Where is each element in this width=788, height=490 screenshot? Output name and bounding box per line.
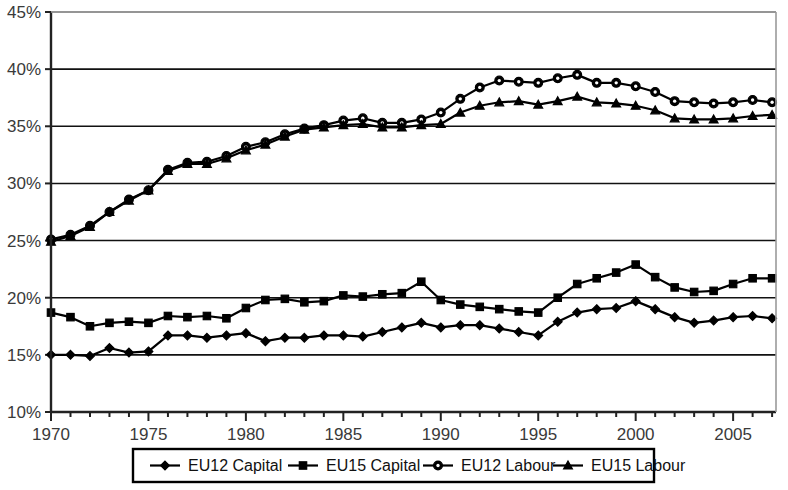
square-marker	[86, 323, 93, 330]
square-marker	[437, 296, 444, 303]
square-marker	[145, 319, 152, 326]
x-tick-label: 2000	[617, 425, 655, 444]
square-marker	[125, 318, 132, 325]
y-tick-label: 15%	[7, 346, 41, 365]
circle-marker-hole	[556, 77, 559, 80]
square-marker	[164, 312, 171, 319]
legend-label: EU12 Capital	[188, 457, 282, 474]
y-tick-label: 45%	[7, 3, 41, 22]
circle-marker-hole	[576, 73, 579, 76]
circle-marker-hole	[673, 99, 676, 102]
y-tick-label: 30%	[7, 174, 41, 193]
square-marker	[262, 296, 269, 303]
line-chart: 10%15%20%25%30%35%40%45% 197019751980198…	[0, 0, 788, 490]
square-marker	[320, 297, 327, 304]
square-marker	[574, 280, 581, 287]
square-marker	[476, 303, 483, 310]
square-marker	[729, 280, 736, 287]
square-marker	[515, 308, 522, 315]
square-marker	[359, 293, 366, 300]
x-tick-label: 1990	[422, 425, 460, 444]
y-tick-label: 35%	[7, 117, 41, 136]
square-marker	[593, 275, 600, 282]
legend-label: EU15 Capital	[326, 457, 420, 474]
chart-background	[0, 0, 788, 490]
square-marker	[612, 269, 619, 276]
square-marker	[223, 315, 230, 322]
circle-marker-hole	[712, 102, 715, 105]
square-marker	[690, 288, 697, 295]
x-tick-label: 1980	[227, 425, 265, 444]
square-marker	[398, 289, 405, 296]
legend-label: EU15 Labour	[591, 457, 686, 474]
square-marker	[457, 301, 464, 308]
square-marker	[418, 278, 425, 285]
circle-marker-hole	[751, 98, 754, 101]
circle-marker-hole	[439, 111, 442, 114]
y-tick-label: 25%	[7, 232, 41, 251]
square-marker	[67, 313, 74, 320]
circle-marker-hole	[770, 101, 773, 104]
chart-container: 10%15%20%25%30%35%40%45% 197019751980198…	[0, 0, 788, 490]
square-marker	[554, 294, 561, 301]
chart-legend: EU12 CapitalEU15 CapitalEU12 LabourEU15 …	[133, 449, 686, 482]
y-tick-label: 20%	[7, 289, 41, 308]
x-tick-label: 1970	[32, 425, 70, 444]
square-marker	[203, 312, 210, 319]
square-marker	[106, 319, 113, 326]
y-tick-label: 10%	[7, 403, 41, 422]
square-marker	[535, 309, 542, 316]
circle-marker-hole	[615, 81, 618, 84]
square-marker	[651, 273, 658, 280]
circle-marker-hole	[478, 86, 481, 89]
circle-marker-hole	[653, 90, 656, 93]
circle-marker-hole	[595, 81, 598, 84]
circle-marker-hole	[634, 85, 637, 88]
square-marker	[710, 287, 717, 294]
square-marker	[242, 304, 249, 311]
circle-marker-hole	[692, 101, 695, 104]
square-marker	[379, 291, 386, 298]
circle-marker-hole	[731, 101, 734, 104]
circle-marker-hole	[517, 80, 520, 83]
square-marker	[632, 261, 639, 268]
x-tick-label: 2005	[714, 425, 752, 444]
circle-marker-hole	[459, 97, 462, 100]
square-marker	[768, 275, 775, 282]
y-tick-label: 40%	[7, 60, 41, 79]
circle-marker-hole	[498, 79, 501, 82]
square-marker	[184, 313, 191, 320]
circle-marker-hole	[436, 464, 439, 467]
legend-label: EU12 Labour	[461, 457, 556, 474]
square-marker	[299, 462, 306, 469]
square-marker	[671, 284, 678, 291]
x-tick-label: 1995	[519, 425, 557, 444]
square-marker	[496, 305, 503, 312]
x-tick-label: 1985	[324, 425, 362, 444]
circle-marker-hole	[537, 81, 540, 84]
square-marker	[749, 275, 756, 282]
square-marker	[301, 299, 308, 306]
square-marker	[340, 292, 347, 299]
x-tick-label: 1975	[130, 425, 168, 444]
square-marker	[281, 295, 288, 302]
